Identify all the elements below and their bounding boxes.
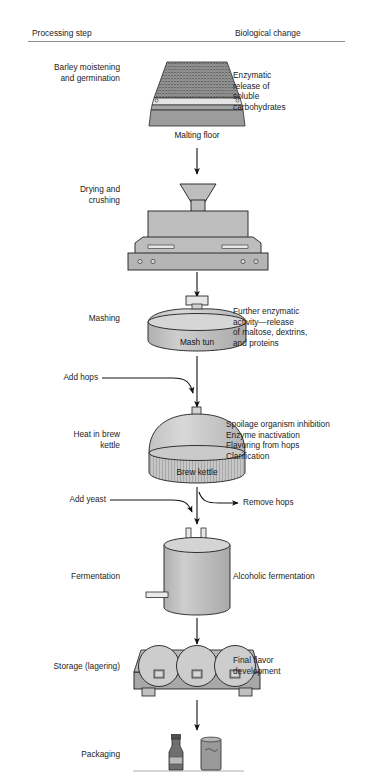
- step-label-boiling: Heat in brew kettle: [8, 429, 120, 450]
- packaging-illustration: [133, 735, 244, 772]
- caption-malting-floor: Malting floor: [147, 130, 247, 140]
- step-label-fermentation: Fermentation: [8, 571, 120, 582]
- step-label-packaging: Packaging: [8, 749, 120, 760]
- annotation-add-yeast: Add yeast: [58, 495, 106, 506]
- annotation-add-hops: Add hops: [56, 373, 98, 384]
- biological-change-malting: Enzymatic release of soluble carbohydrat…: [233, 70, 363, 112]
- biological-change-fermentation: Alcoholic fermentation: [233, 571, 363, 582]
- caption-brew-kettle: Brew kettle: [152, 467, 242, 477]
- step-label-storage: Storage (lagering): [4, 661, 120, 672]
- biological-change-boiling: Spoilage organism inhibition Enzyme inac…: [226, 419, 369, 461]
- crushing-machine-illustration: [128, 184, 268, 270]
- fermentation-tank-illustration: [146, 528, 230, 615]
- step-label-malting: Barley moistening and germination: [8, 62, 120, 83]
- caption-mash-tun: Mash tun: [152, 337, 242, 347]
- biological-change-storage: Final flavor development: [233, 655, 353, 676]
- annotation-remove-hops: Remove hops: [243, 498, 323, 509]
- step-label-mashing: Mashing: [8, 313, 120, 324]
- biological-change-mashing: Further enzymatic activity—release of ma…: [233, 306, 365, 348]
- brewing-process-diagram: Processing step Biological change: [0, 0, 369, 784]
- step-label-drying: Drying and crushing: [8, 184, 120, 205]
- malting-floor-illustration: [149, 62, 245, 126]
